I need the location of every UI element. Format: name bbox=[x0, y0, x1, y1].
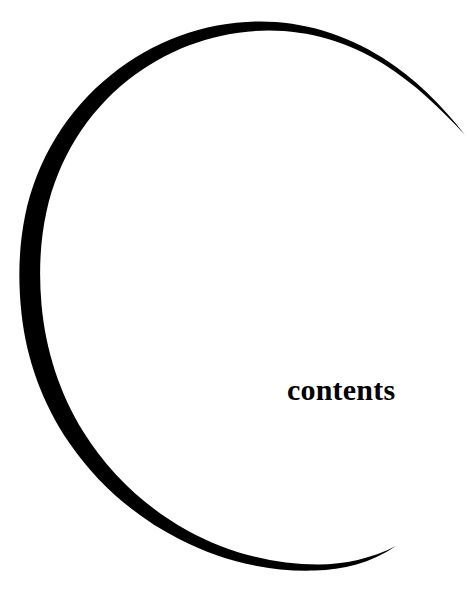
arc-group bbox=[19, 22, 465, 571]
arc-outer-path bbox=[19, 22, 465, 571]
page-canvas: contents bbox=[0, 0, 468, 609]
open-circle-arc-decoration bbox=[0, 0, 468, 609]
page-title: contents bbox=[287, 374, 395, 406]
